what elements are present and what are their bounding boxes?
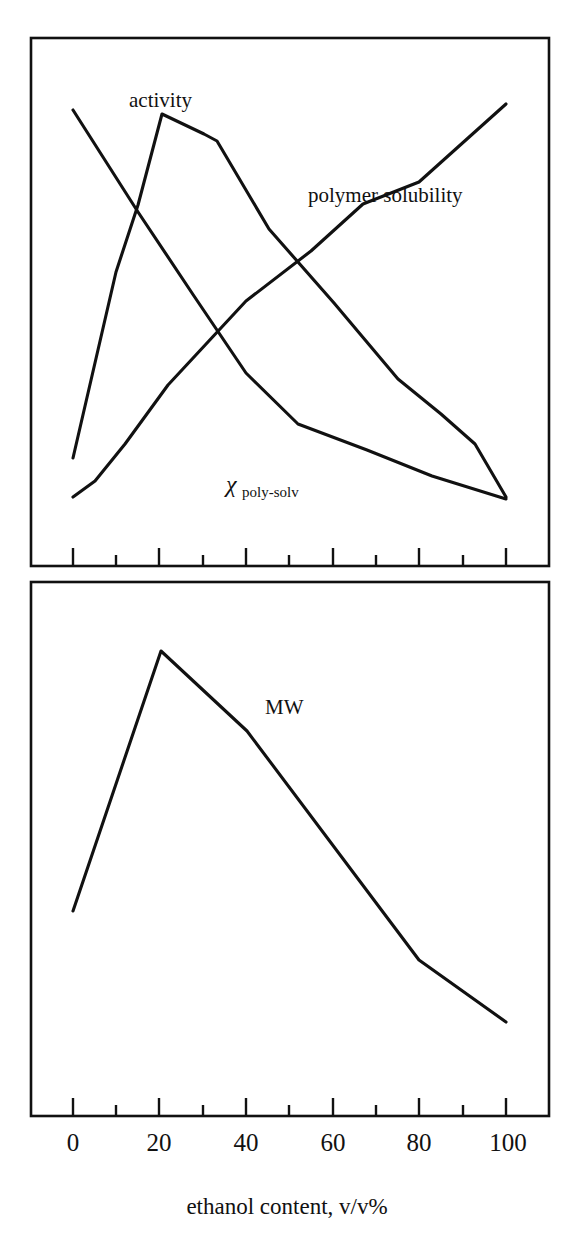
x-axis-tick-labels: 0 20 40 60 80 100	[67, 1129, 527, 1156]
x-tick-label-80: 80	[407, 1129, 432, 1156]
x-tick-label-60: 60	[321, 1129, 346, 1156]
x-axis-title: ethanol content, v/v%	[186, 1194, 387, 1219]
x-tick-label-100: 100	[489, 1129, 527, 1156]
label-chi-poly-solv: χ poly-solv	[224, 471, 299, 500]
bottom-panel-frame	[31, 582, 549, 1116]
x-tick-label-20: 20	[147, 1129, 172, 1156]
top-panel: activity polymer solubility χ poly-solv	[31, 38, 549, 566]
chi-subscript: poly-solv	[242, 484, 299, 500]
curve-activity	[73, 114, 506, 497]
chart-canvas: activity polymer solubility χ poly-solv	[0, 0, 574, 1254]
x-tick-label-40: 40	[234, 1129, 259, 1156]
label-polymer-solubility: polymer solubility	[308, 183, 463, 207]
curve-chi-poly-solv	[73, 110, 506, 499]
bottom-panel: MW 0 20 40 60 80 100 ethanol content, v/…	[31, 582, 549, 1219]
curve-polymer-solubility	[73, 104, 506, 497]
top-panel-ticks	[73, 548, 506, 566]
label-mw: MW	[265, 695, 304, 719]
bottom-panel-ticks	[73, 1098, 506, 1116]
chi-symbol: χ	[224, 471, 238, 497]
label-activity: activity	[129, 88, 192, 112]
x-tick-label-0: 0	[67, 1129, 80, 1156]
figure-container: activity polymer solubility χ poly-solv	[0, 0, 574, 1254]
